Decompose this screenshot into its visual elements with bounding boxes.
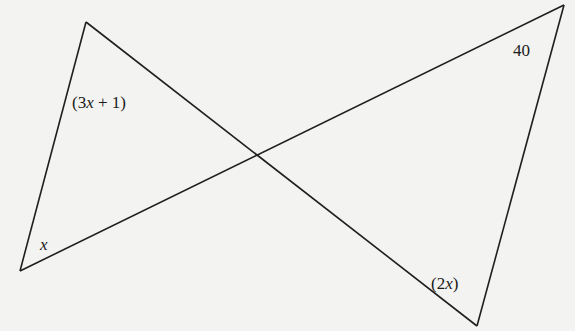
angle-label-bottom-right: (2x) bbox=[431, 274, 458, 293]
angle-label-top-left: (3x + 1) bbox=[72, 93, 126, 112]
segment-left-side bbox=[20, 22, 86, 271]
segment-diagonal-up bbox=[20, 5, 564, 271]
bowtie-diagram: (3x + 1) x 40 (2x) bbox=[0, 0, 575, 331]
segment-diagonal-down bbox=[86, 22, 477, 326]
angle-label-top-right: 40 bbox=[513, 41, 530, 60]
angle-label-bottom-left: x bbox=[39, 235, 48, 254]
